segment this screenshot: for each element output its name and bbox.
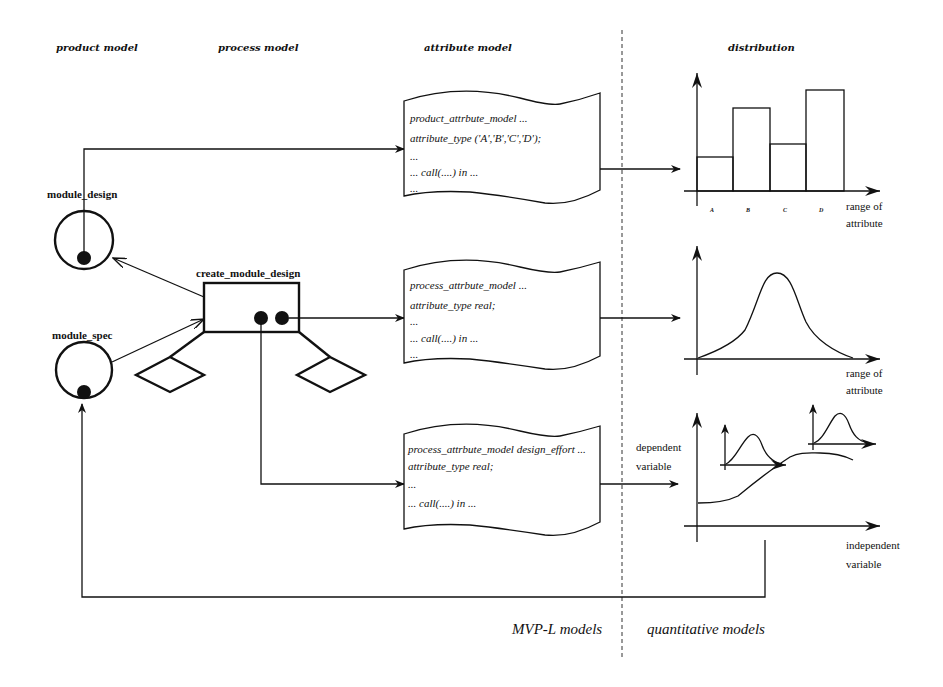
histogram-tick-c: C	[783, 207, 788, 213]
histogram-x-label-2: attribute	[846, 217, 883, 229]
histogram-tick-d: D	[818, 207, 824, 213]
attribute-model-product[interactable]: product_attrbute_model ... attribute_typ…	[404, 91, 600, 203]
normal-x-label-1: range of	[846, 367, 883, 379]
normal-x-label-2: attribute	[846, 384, 883, 396]
attribute-model-design-effort[interactable]: process_attrbute_model design_effort ...…	[404, 424, 600, 535]
histogram-bar-c	[770, 144, 806, 191]
header-distribution: distribution	[728, 42, 795, 53]
attr2-line-3: ...	[410, 315, 418, 327]
attr3-line-4: ... call(....) in ...	[408, 497, 476, 510]
diamond-right	[297, 357, 365, 392]
process-node-create-module-design[interactable]: create_module_design	[196, 267, 300, 332]
attr3-line-3: ...	[408, 478, 416, 490]
process-token-2	[275, 311, 289, 325]
histogram-x-label-1: range of	[846, 200, 883, 212]
mini-dist-1-curve	[726, 434, 782, 464]
regression-curve	[698, 453, 853, 503]
mvp-l-diagram: product model process model attribute mo…	[0, 0, 943, 687]
attr1-line-3: ...	[410, 150, 418, 162]
histogram-tick-a: A	[709, 207, 714, 213]
arrow-module-spec-to-process	[112, 319, 204, 362]
attr2-line-1: process_attrbute_model ...	[409, 279, 527, 291]
header-attribute-model: attribute model	[424, 42, 512, 53]
histogram-tick-b: B	[745, 207, 750, 213]
footer-quantitative-models: quantitative models	[647, 621, 765, 637]
footer-mvp-l-models: MVP-L models	[511, 621, 602, 637]
attribute-doc-3-shape	[404, 424, 600, 535]
histogram-chart: A B C D range of attribute	[684, 73, 883, 229]
diamond-left	[136, 357, 204, 392]
attr3-line-1: process_attrbute_model design_effort ...	[407, 443, 586, 455]
product-node-module-spec[interactable]: module_spec	[52, 329, 113, 399]
product-node-module-design[interactable]: module_design	[47, 188, 117, 269]
header-process-model: process model	[218, 42, 299, 53]
attribute-model-process[interactable]: process_attrbute_model ... attribute_typ…	[404, 260, 600, 369]
module-spec-label: module_spec	[52, 329, 113, 341]
diamond-left-connector	[170, 332, 204, 357]
create-module-design-box	[204, 283, 299, 332]
histogram-bar-d	[806, 90, 844, 191]
create-module-design-label: create_module_design	[196, 267, 300, 279]
normal-curve	[698, 273, 853, 358]
attribute-doc-1-shape	[404, 91, 600, 203]
regression-chart: dependent variable independent variable	[636, 405, 900, 570]
link-design-effort	[261, 318, 404, 484]
arrow-process-to-module-design	[113, 258, 204, 297]
regression-y-label-2: variable	[636, 460, 672, 472]
regression-y-label-1: dependent	[636, 441, 681, 453]
link-module-design-attribute	[84, 149, 404, 258]
attribute-doc-2-shape	[404, 260, 600, 369]
mini-dist-2-curve	[814, 413, 868, 443]
attr2-line-4: ... call(....) in ...	[410, 332, 478, 345]
attr1-line-4: ... call(....) in ...	[410, 166, 478, 179]
header-product-model: product model	[56, 42, 138, 53]
module-design-label: module_design	[47, 188, 117, 200]
histogram-bar-a	[697, 157, 733, 191]
attr1-line-1: product_attrbute_model ...	[409, 112, 528, 124]
regression-x-label-1: independent	[846, 539, 900, 551]
regression-x-label-2: variable	[846, 558, 882, 570]
attr3-line-2: attribute_type real;	[408, 460, 493, 472]
attr2-line-2: attribute_type real;	[410, 299, 495, 311]
module-spec-token	[77, 385, 91, 399]
histogram-bar-b	[733, 108, 770, 191]
normal-distribution-chart: range of attribute	[684, 246, 883, 396]
attr1-line-5: ...	[410, 182, 418, 194]
attr1-line-2: attribute_type ('A','B','C','D');	[410, 132, 541, 145]
attr2-line-5: ...	[410, 348, 418, 360]
diamond-right-connector	[299, 332, 330, 357]
